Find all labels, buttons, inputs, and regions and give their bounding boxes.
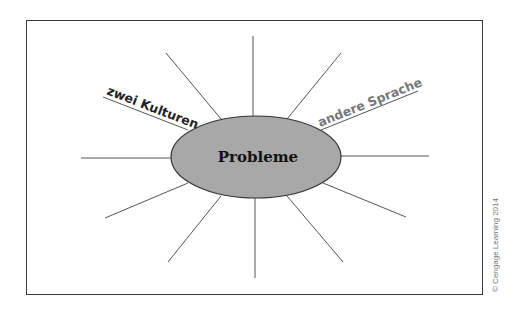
copyright-notice: © Cengage Learning 2014 <box>491 197 500 292</box>
mind-map-diagram: Probleme zwei Kulturen andere Sprache © … <box>0 0 527 309</box>
center-label: Probleme <box>218 148 298 166</box>
